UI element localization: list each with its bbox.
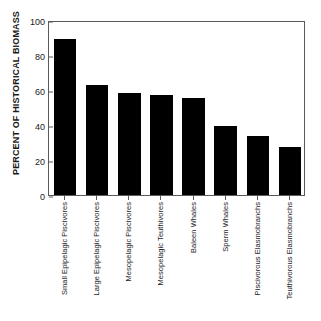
y-axis-tick-label: 0 — [40, 192, 45, 202]
y-axis-title: PERCENT OF HISTORICAL BIOMASS — [11, 3, 21, 183]
x-axis-tick-mark — [193, 196, 194, 200]
bar — [279, 147, 301, 195]
x-axis-tick-mark — [64, 196, 65, 200]
bar — [86, 85, 108, 195]
x-axis-category-label: Baleen Whales — [188, 202, 197, 253]
x-axis-category-label: Small Epipelagic Piscivores — [60, 202, 69, 295]
x-axis-category-label: Mesopelagic Teuthivores — [156, 202, 165, 286]
x-axis-ticks — [48, 196, 305, 201]
y-axis-tick-label: 20 — [35, 157, 45, 167]
bar — [214, 126, 236, 195]
x-axis-category-labels: Small Epipelagic PiscivoresLarge Epipela… — [48, 202, 305, 317]
plot-area: 020406080100 — [48, 21, 305, 196]
x-axis-category-label: Mesopelagic Piscivores — [124, 202, 133, 281]
x-axis-tick-mark — [289, 196, 290, 200]
x-axis-category-label: Teuthivorous Elasmobranchs — [284, 202, 293, 300]
y-axis-tick-label: 100 — [30, 17, 45, 27]
bar — [118, 93, 140, 195]
x-axis-category-label: Sperm Whales — [220, 202, 229, 252]
bar — [54, 39, 76, 195]
x-axis-tick-mark — [128, 196, 129, 200]
x-axis-category-label: Piscivorous Elasmobranchs — [252, 202, 261, 295]
y-axis-title-container: PERCENT OF HISTORICAL BIOMASS — [0, 0, 22, 205]
bar — [182, 98, 204, 195]
x-axis-tick-mark — [160, 196, 161, 200]
bar — [247, 136, 269, 195]
bar-chart-figure: PERCENT OF HISTORICAL BIOMASS 0204060801… — [0, 0, 321, 321]
y-axis-tick-label: 40 — [35, 122, 45, 132]
x-axis-category-label: Large Epipelagic Piscivores — [92, 202, 101, 295]
x-axis-tick-mark — [225, 196, 226, 200]
bar-series — [49, 22, 304, 195]
y-axis-tick-label: 60 — [35, 87, 45, 97]
x-axis-tick-mark — [257, 196, 258, 200]
y-axis-tick-label: 80 — [35, 52, 45, 62]
x-axis-tick-mark — [96, 196, 97, 200]
bar — [150, 95, 172, 195]
